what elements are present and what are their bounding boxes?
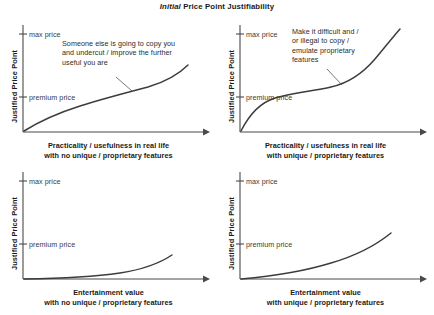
y-tick-label-premium-price: premium price bbox=[29, 93, 75, 102]
x-axis-title-line1: Entertainment value bbox=[217, 288, 434, 298]
chart-panel-bottom-right: Justified Price Point max price premium … bbox=[217, 160, 434, 315]
x-axis-title-line1: Practicality / usefulness in real life bbox=[217, 141, 434, 151]
y-tick-label-premium-price: premium price bbox=[246, 93, 292, 102]
figure-title-emphasis: Initial bbox=[160, 2, 181, 11]
y-axis-title: Justified Price Point bbox=[10, 50, 19, 123]
chart-panel-top-right: Justified Price Point max price premium … bbox=[217, 11, 434, 168]
annotation-leader-line bbox=[327, 69, 342, 85]
x-axis-title-line1: Practicality / usefulness in real life bbox=[0, 141, 217, 151]
x-axis-arrowhead bbox=[420, 129, 427, 136]
x-axis-title: Entertainment value with unique / propri… bbox=[217, 288, 434, 307]
x-axis-title-line2: with no unique / proprietary features bbox=[0, 298, 217, 308]
annotation-text: Make it difficult and / or illegal to co… bbox=[292, 27, 384, 64]
x-axis-title: Practicality / usefulness in real life w… bbox=[217, 141, 434, 160]
y-tick-label-max-price: max price bbox=[246, 177, 278, 186]
x-axis-arrowhead bbox=[420, 276, 427, 283]
x-axis-title-line2: with no unique / proprietary features bbox=[0, 151, 217, 161]
y-tick-label-premium-price: premium price bbox=[29, 240, 75, 249]
chart-panel-bottom-left: Justified Price Point max price premium … bbox=[0, 160, 217, 315]
x-axis-title: Entertainment value with no unique / pro… bbox=[0, 288, 217, 307]
annotation-text: Someone else is going to copy you and un… bbox=[62, 39, 208, 67]
x-axis-title-line2: with unique / proprietary features bbox=[217, 298, 434, 308]
x-axis-arrowhead bbox=[203, 129, 210, 136]
y-axis-title: Justified Price Point bbox=[10, 197, 19, 270]
y-tick-label-max-price: max price bbox=[29, 177, 61, 186]
price-point-justifiability-figure: Initial Price Point Justifiability Justi… bbox=[0, 0, 434, 315]
y-axis-title: Justified Price Point bbox=[227, 50, 236, 123]
annotation-leader-line bbox=[116, 77, 132, 91]
x-axis-title-line2: with unique / proprietary features bbox=[217, 151, 434, 161]
x-axis-title: Practicality / usefulness in real life w… bbox=[0, 141, 217, 160]
figure-title: Initial Price Point Justifiability bbox=[0, 2, 434, 11]
y-axis-title: Justified Price Point bbox=[227, 197, 236, 270]
x-axis-title-line1: Entertainment value bbox=[0, 288, 217, 298]
y-tick-label-max-price: max price bbox=[246, 30, 278, 39]
y-tick-label-max-price: max price bbox=[29, 30, 61, 39]
chart-panel-top-left: Justified Price Point max price premium … bbox=[0, 11, 217, 168]
figure-title-rest: Price Point Justifiability bbox=[181, 2, 274, 11]
y-tick-label-premium-price: premium price bbox=[246, 240, 292, 249]
curve-bottom-left bbox=[24, 255, 172, 279]
x-axis-arrowhead bbox=[203, 276, 210, 283]
